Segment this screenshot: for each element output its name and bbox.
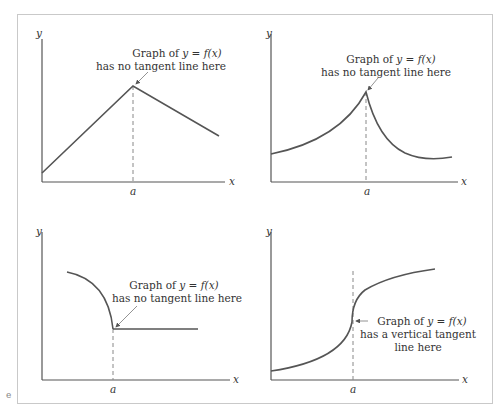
graph-curve-left	[67, 272, 113, 329]
x-axis-label: x	[233, 373, 239, 385]
y-axis-label: y	[35, 225, 43, 237]
panel-top-right: y x a Graph of y = f(x) has no tangent l…	[265, 27, 467, 197]
y-axis-label: y	[35, 27, 43, 39]
tick-label-a: a	[130, 185, 136, 197]
pointer-arrow	[368, 78, 378, 90]
annotation-line-1: Graph of y = f(x)	[346, 53, 435, 65]
annotation-line-1: Graph of y = f(x)	[132, 47, 221, 59]
y-axis-label: y	[265, 27, 273, 39]
x-axis-label: x	[461, 175, 467, 187]
annotation-line-2: has no tangent line here	[112, 292, 242, 304]
pointer-arrow	[136, 72, 148, 84]
panel-top-left: y x a Graph of y = f(x) has no tangent l…	[35, 27, 235, 197]
annotation-line-1: Graph of y = f(x)	[377, 315, 466, 327]
annotation-line-2: has no tangent line here	[96, 60, 226, 72]
tick-label-a: a	[350, 383, 356, 395]
figure-svg: y x a Graph of y = f(x) has no tangent l…	[0, 0, 502, 415]
pointer-arrow	[116, 306, 137, 327]
panel-bottom-right: y x a Graph of y = f(x) has a vertical t…	[265, 225, 477, 395]
tick-label-a: a	[110, 383, 116, 395]
x-axis-label: x	[462, 373, 468, 385]
annotation-line-2: has no tangent line here	[321, 66, 451, 78]
annotation-line-1: Graph of y = f(x)	[129, 279, 218, 291]
annotation-line-2: has a vertical tangent	[360, 328, 477, 340]
x-axis-label: x	[229, 175, 235, 187]
annotation-line-3: line here	[394, 341, 441, 353]
graph-curve	[271, 92, 452, 159]
tick-label-a: a	[364, 185, 370, 197]
panel-bottom-left: y x a Graph of y = f(x) has no tangent l…	[35, 225, 242, 395]
graph-curve	[42, 86, 219, 173]
y-axis-label: y	[265, 225, 273, 237]
